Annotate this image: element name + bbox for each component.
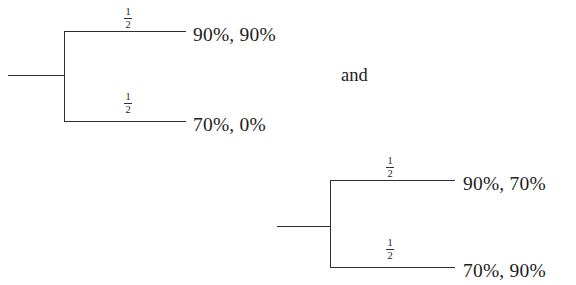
tree-left-branch-upper: [64, 31, 186, 32]
fraction-numerator: 1: [124, 92, 131, 103]
tree-right-node-spine: [330, 180, 331, 267]
fraction-numerator: 1: [124, 7, 131, 18]
tree-right-probability-lower: 1 2: [386, 238, 394, 261]
tree-left-branch-lower: [64, 121, 186, 122]
tree-left-outcome-upper: 90%, 90%: [193, 25, 276, 45]
fraction-numerator: 1: [386, 238, 393, 249]
tree-right-branch-lower: [330, 267, 455, 268]
fraction-denominator: 2: [386, 168, 393, 179]
tree-left-outcome-lower: 70%, 0%: [193, 115, 266, 135]
fraction-denominator: 2: [386, 250, 393, 261]
tree-right-root-stem: [277, 226, 331, 227]
tree-right-outcome-lower: 70%, 90%: [463, 261, 546, 281]
figure-canvas: 1 2 1 2 90%, 90% 70%, 0% and 1 2: [0, 0, 576, 285]
tree-left-probability-upper: 1 2: [124, 7, 132, 30]
tree-right-outcome-upper: 90%, 70%: [463, 174, 546, 194]
fraction-numerator: 1: [386, 156, 393, 167]
tree-left-node-spine: [64, 31, 65, 121]
fraction-denominator: 2: [124, 19, 131, 30]
connective-and: and: [341, 66, 368, 85]
tree-right-branch-upper: [330, 180, 455, 181]
fraction-denominator: 2: [124, 104, 131, 115]
tree-right-probability-upper: 1 2: [386, 156, 394, 179]
tree-left-probability-lower: 1 2: [124, 92, 132, 115]
tree-left-root-stem: [8, 75, 65, 76]
